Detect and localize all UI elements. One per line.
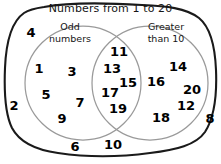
number-odd-only: 5 [41, 87, 50, 102]
greater-than-10-label-line1: Greater [132, 22, 200, 33]
number-intersection: 17 [101, 85, 119, 100]
venn-diagram: Numbers from 1 to 20 Odd numbers Greater… [0, 0, 221, 164]
number-odd-only: 7 [75, 95, 84, 110]
number-greater-only: 14 [169, 59, 187, 74]
number-outside: 2 [9, 98, 18, 113]
number-odd-only: 9 [57, 111, 66, 126]
number-outside: 6 [70, 139, 79, 154]
number-odd-only: 1 [34, 61, 43, 76]
number-intersection: 19 [109, 101, 127, 116]
number-outside: 4 [26, 25, 35, 40]
number-greater-only: 16 [147, 74, 165, 89]
number-outside: 8 [205, 111, 214, 126]
number-odd-only: 3 [67, 64, 76, 79]
number-intersection: 11 [110, 44, 128, 59]
number-intersection: 15 [119, 75, 137, 90]
page-title: Numbers from 1 to 20 [0, 3, 221, 15]
number-intersection: 13 [103, 61, 121, 76]
greater-than-10-label-line2: than 10 [132, 34, 200, 45]
number-greater-only: 12 [177, 98, 195, 113]
odd-numbers-label-line1: Odd [40, 22, 100, 33]
number-greater-only: 18 [152, 110, 170, 125]
odd-numbers-label-line2: numbers [34, 34, 106, 45]
number-greater-only: 20 [183, 82, 201, 97]
number-outside: 10 [104, 137, 122, 152]
